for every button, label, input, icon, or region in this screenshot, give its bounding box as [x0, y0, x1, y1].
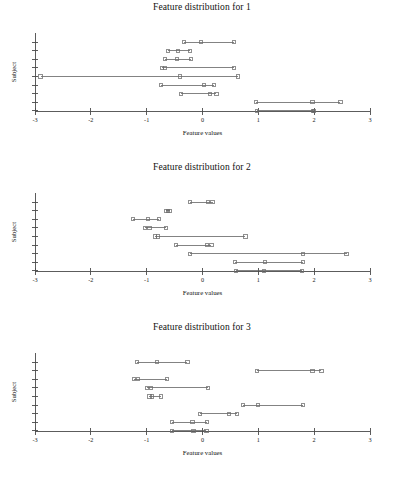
series-median-marker — [227, 412, 230, 415]
series-min-marker — [182, 40, 185, 43]
x-tick-label: -2 — [88, 436, 93, 443]
x-tick-label: 1 — [257, 436, 260, 443]
series-max-marker — [233, 40, 236, 43]
series-row — [233, 261, 304, 264]
x-tick-label: -3 — [32, 276, 37, 283]
series-row — [256, 369, 323, 372]
series-max-marker — [206, 386, 209, 389]
series-max-marker — [188, 49, 191, 52]
series-row — [198, 412, 239, 415]
series-min-marker — [189, 252, 192, 255]
series-max-marker — [215, 92, 218, 95]
series-median-marker — [150, 386, 153, 389]
series-max-marker — [190, 58, 193, 61]
series-min-marker — [198, 412, 201, 415]
series-row — [170, 421, 208, 424]
series-row — [180, 92, 218, 95]
series-max-marker — [244, 235, 247, 238]
series-max-marker — [233, 66, 236, 69]
series-row — [131, 218, 160, 221]
series-row — [159, 83, 215, 86]
series-median-marker — [205, 243, 208, 246]
series-min-marker — [189, 200, 192, 203]
series-min-marker — [242, 403, 245, 406]
x-axis-title: Feature values — [183, 449, 223, 456]
series-max-marker — [345, 252, 348, 255]
figure-page: Feature distribution for 1 -3-2-10123Sub… — [0, 0, 404, 481]
series-median-marker — [176, 58, 179, 61]
series-row — [135, 360, 189, 363]
series-median-marker — [146, 218, 149, 221]
x-tick-label: 3 — [368, 276, 371, 283]
series-median-marker — [311, 101, 314, 104]
series-median-marker — [202, 83, 205, 86]
x-tick-label: 2 — [313, 116, 316, 123]
series-max-marker — [339, 101, 342, 104]
x-axis-title: Feature values — [183, 129, 223, 136]
series-max-marker — [301, 261, 304, 264]
x-tick-label: -3 — [32, 116, 37, 123]
series-max-marker — [301, 403, 304, 406]
x-tick-label: 0 — [201, 116, 204, 123]
series-median-marker — [206, 200, 209, 203]
series-median-marker — [176, 49, 179, 52]
series-median-marker — [200, 40, 203, 43]
series-median-marker — [136, 378, 139, 381]
series-row — [234, 269, 303, 272]
series-min-marker — [133, 378, 136, 381]
chart-panel-2: Feature distribution for 2 -3-2-10123Sub… — [0, 160, 404, 320]
x-tick-label: -2 — [88, 116, 93, 123]
series-median-marker — [163, 66, 166, 69]
series-max-marker — [205, 421, 208, 424]
chart-panel-1: Feature distribution for 1 -3-2-10123Sub… — [0, 0, 404, 160]
series-min-marker — [131, 218, 134, 221]
chart-plot-2: -3-2-10123SubjectFeature values — [0, 160, 404, 320]
x-tick-label: -1 — [144, 276, 149, 283]
series-min-marker — [233, 261, 236, 264]
series-min-marker — [255, 109, 258, 112]
series-row — [242, 403, 305, 406]
series-row — [175, 243, 213, 246]
chart-plot-3: -3-2-10123SubjectFeature values — [0, 320, 404, 481]
x-tick-label: 3 — [368, 436, 371, 443]
series-median-marker — [257, 403, 260, 406]
series-row — [166, 49, 191, 52]
x-tick-label: -1 — [144, 116, 149, 123]
series-max-marker — [236, 75, 239, 78]
series-min-marker — [39, 75, 42, 78]
x-tick-label: -1 — [144, 436, 149, 443]
series-min-marker — [145, 386, 148, 389]
series-median-marker — [155, 360, 158, 363]
series-row — [161, 66, 236, 69]
y-axis-title: Subject — [10, 382, 17, 402]
series-median-marker — [148, 226, 151, 229]
series-max-marker — [300, 269, 303, 272]
series-min-marker — [255, 101, 258, 104]
series-row — [165, 209, 172, 212]
series-max-marker — [159, 395, 162, 398]
x-tick-label: -2 — [88, 276, 93, 283]
series-median-marker — [311, 369, 314, 372]
x-tick-label: 3 — [368, 116, 371, 123]
series-min-marker — [171, 429, 174, 432]
series-row — [145, 386, 210, 389]
series-median-marker — [179, 75, 182, 78]
series-max-marker — [157, 218, 160, 221]
series-row — [133, 378, 169, 381]
series-median-marker — [191, 421, 194, 424]
series-row — [143, 226, 167, 229]
series-median-marker — [156, 235, 159, 238]
x-tick-label: 2 — [313, 276, 316, 283]
series-min-marker — [143, 226, 146, 229]
series-max-marker — [165, 226, 168, 229]
series-min-marker — [234, 269, 237, 272]
series-max-marker — [211, 200, 214, 203]
series-min-marker — [159, 83, 162, 86]
series-max-marker — [210, 243, 213, 246]
chart-plot-1: -3-2-10123SubjectFeature values — [0, 0, 404, 160]
series-median-marker — [192, 429, 195, 432]
series-row — [182, 40, 235, 43]
series-max-marker — [169, 209, 172, 212]
series-max-marker — [186, 360, 189, 363]
series-max-marker — [166, 378, 169, 381]
